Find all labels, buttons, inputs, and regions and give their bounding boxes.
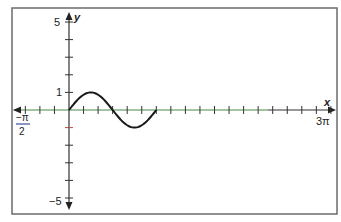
y-tick-label-neg5: −5 bbox=[49, 195, 62, 207]
x-axis-label: x bbox=[323, 96, 331, 108]
y-tick-label-1: 1 bbox=[56, 86, 62, 98]
fraction-denominator: 2 bbox=[19, 126, 25, 137]
fraction-numerator: −π bbox=[16, 112, 29, 123]
graph-canvas: y x 5 1 −5 3π −π 2 bbox=[0, 0, 341, 222]
graph-frame bbox=[12, 8, 337, 214]
y-axis-label: y bbox=[73, 11, 81, 23]
x-tick-label-3pi: 3π bbox=[316, 115, 330, 127]
y-tick-label-5: 5 bbox=[54, 16, 60, 28]
